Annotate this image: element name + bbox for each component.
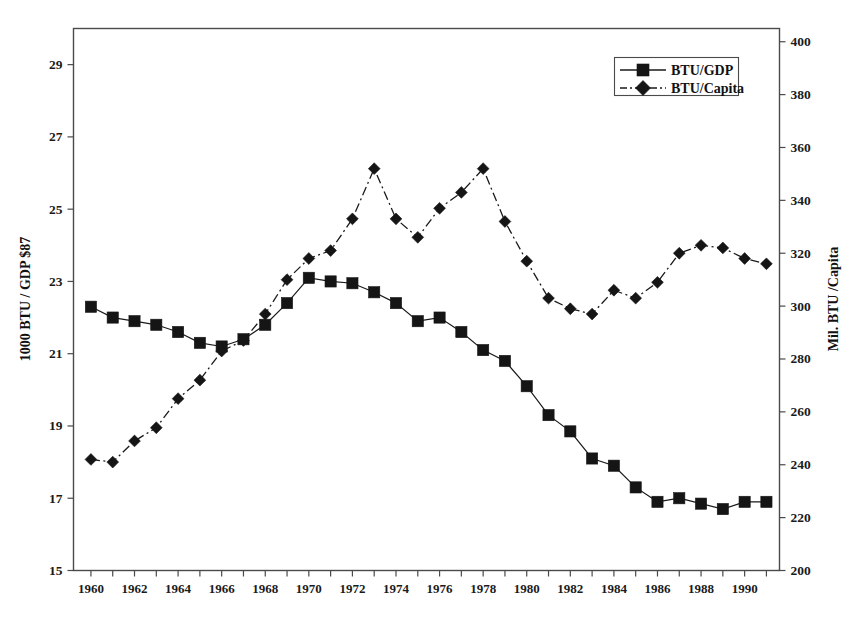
y-tick-label-left: 23 [49, 274, 63, 289]
data-point [630, 482, 641, 493]
y-tick-label-left: 27 [49, 129, 63, 144]
data-point [347, 213, 359, 225]
y-tick-label-left: 19 [49, 418, 63, 433]
data-point [151, 319, 162, 330]
data-point [368, 163, 380, 175]
data-point [587, 453, 598, 464]
data-point [260, 319, 271, 330]
data-point [434, 312, 445, 323]
data-point [172, 393, 184, 405]
y-tick-label-left: 15 [49, 563, 63, 578]
x-axis-labels: 1960196219641966196819701972197419761978… [78, 581, 758, 596]
legend: BTU/GDP BTU/Capita [615, 58, 745, 97]
data-point [674, 493, 685, 504]
y-tick-label-left: 25 [49, 202, 63, 217]
series-btu-capita [85, 163, 772, 468]
y-tick-label-right: 260 [791, 404, 812, 419]
y-tick-label-right: 360 [791, 140, 812, 155]
y-tick-label-left: 21 [49, 346, 63, 361]
data-point [85, 301, 96, 312]
y-axis-right-ticks [780, 42, 786, 571]
data-point [434, 202, 446, 214]
data-point [608, 284, 620, 296]
y-tick-label-right: 220 [791, 510, 812, 525]
data-point [478, 344, 489, 355]
data-point [259, 308, 271, 320]
y-axis-right-labels: 200220240260280300320340360380400 [791, 34, 812, 578]
x-tick-label: 1980 [514, 581, 540, 596]
x-tick-label: 1986 [644, 581, 671, 596]
x-tick-label: 1972 [339, 581, 365, 596]
legend-label-btu-capita: BTU/Capita [671, 81, 744, 96]
x-tick-label: 1988 [688, 581, 715, 596]
data-point [499, 355, 510, 366]
data-point [717, 503, 728, 514]
data-point [107, 312, 118, 323]
data-point [695, 239, 707, 251]
data-point [586, 308, 598, 320]
data-point [369, 287, 380, 298]
legend-entry-btu-gdp[interactable]: BTU/GDP [620, 63, 734, 78]
data-point [303, 272, 314, 283]
data-point [521, 381, 532, 392]
data-point [543, 292, 555, 304]
x-tick-label: 1990 [732, 581, 758, 596]
y-tick-label-right: 320 [791, 246, 812, 261]
data-point [673, 247, 685, 259]
data-point [129, 316, 140, 327]
legend-square-marker [637, 64, 649, 76]
data-point [543, 410, 554, 421]
data-point [390, 298, 401, 309]
y-tick-label-right: 280 [791, 351, 812, 366]
series-group [85, 163, 772, 515]
x-tick-label: 1982 [557, 581, 583, 596]
series-btu-gdp [85, 272, 772, 514]
data-point [194, 374, 206, 386]
data-point [303, 253, 315, 265]
plot-frame [74, 29, 780, 571]
y-tick-label-right: 380 [791, 87, 812, 102]
chart-canvas: 1517192123252729 20022024026028030032034… [0, 0, 855, 626]
data-point [325, 245, 337, 257]
data-point [85, 454, 97, 466]
x-tick-label: 1970 [296, 581, 322, 596]
x-tick-label: 1966 [209, 581, 236, 596]
series-line-btu-gdp [91, 278, 767, 509]
y-tick-label-right: 340 [791, 193, 812, 208]
y-tick-label-left: 17 [49, 491, 63, 506]
x-tick-label: 1968 [252, 581, 279, 596]
data-point [652, 496, 663, 507]
data-point [499, 216, 511, 228]
y-tick-label-right: 400 [791, 34, 812, 49]
data-point [456, 326, 467, 337]
legend-label-btu-gdp: BTU/GDP [671, 63, 734, 78]
data-point [281, 298, 292, 309]
data-point [390, 213, 402, 225]
data-point [564, 303, 576, 315]
x-tick-label: 1976 [427, 581, 454, 596]
data-point [107, 456, 119, 468]
data-point [412, 316, 423, 327]
y-axis-left-title: 1000 BTU / GDP $87 [18, 237, 33, 361]
y-tick-label-right: 200 [791, 563, 812, 578]
data-point [347, 278, 358, 289]
y-axis-left-labels: 1517192123252729 [49, 57, 63, 578]
data-point [412, 231, 424, 243]
data-point [325, 276, 336, 287]
x-tick-label: 1960 [78, 581, 104, 596]
y-axis-right-title: Mil. BTU /Capita [826, 247, 841, 352]
x-tick-label: 1974 [383, 581, 410, 596]
data-point [652, 276, 664, 288]
y-tick-label-right: 240 [791, 457, 812, 472]
data-point [630, 292, 642, 304]
data-point [761, 258, 773, 270]
x-tick-label: 1964 [165, 581, 192, 596]
data-point [608, 460, 619, 471]
y-axis-left-ticks [68, 65, 74, 571]
data-point [150, 422, 162, 434]
data-point [739, 253, 751, 265]
data-point [565, 426, 576, 437]
data-point [761, 496, 772, 507]
x-tick-label: 1962 [122, 581, 148, 596]
x-tick-label: 1978 [470, 581, 497, 596]
